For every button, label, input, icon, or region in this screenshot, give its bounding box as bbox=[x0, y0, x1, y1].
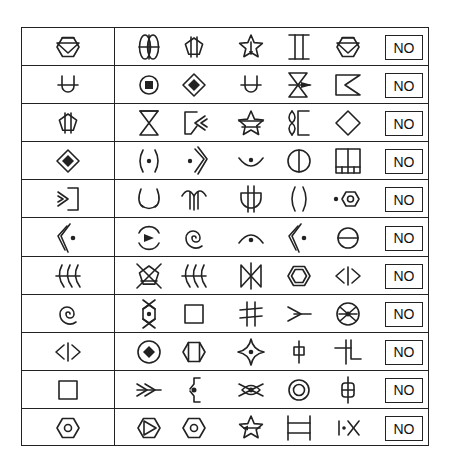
option-symbol-hash-icon[interactable] bbox=[231, 295, 271, 333]
option-symbol-smile-dot-icon[interactable] bbox=[231, 142, 271, 180]
option-symbol-parens-icon[interactable] bbox=[279, 180, 319, 218]
target-symbol-spiral-icon bbox=[48, 295, 88, 333]
option-symbol-circle-arrow-icon[interactable] bbox=[129, 219, 169, 257]
no-button[interactable]: NO bbox=[385, 416, 423, 441]
table-row: NO bbox=[22, 142, 428, 180]
option-symbol-hourglass-icon[interactable] bbox=[129, 104, 169, 142]
option-symbol-pentagon-bars-icon[interactable] bbox=[174, 28, 214, 66]
table-row: NO bbox=[22, 180, 428, 218]
target-symbol-arrow-bracket-icon bbox=[48, 180, 88, 218]
option-symbol-arrow-v-icon[interactable] bbox=[279, 295, 319, 333]
option-symbol-angle-bar-icon[interactable] bbox=[328, 257, 368, 295]
table-row: NO bbox=[22, 219, 428, 257]
table-row: NO bbox=[22, 333, 428, 371]
option-symbol-pentagon-cross-icon[interactable] bbox=[129, 257, 169, 295]
option-symbol-bracket-dot-icon[interactable] bbox=[174, 371, 214, 409]
target-symbol-u-crossbar-icon bbox=[48, 66, 88, 104]
table-row: NO bbox=[22, 371, 428, 409]
option-symbol-hexagon-play-icon[interactable] bbox=[129, 409, 169, 447]
target-symbol-hexagon-circle-icon bbox=[48, 409, 88, 447]
option-symbol-bracket-twist-icon[interactable] bbox=[279, 104, 319, 142]
no-button[interactable]: NO bbox=[385, 35, 423, 60]
option-symbol-spiral-icon[interactable] bbox=[174, 219, 214, 257]
option-symbol-hourglass-arrow-icon[interactable] bbox=[279, 66, 319, 104]
option-symbol-hexagon-dot-cross-icon[interactable] bbox=[129, 295, 169, 333]
table-row: NO bbox=[22, 295, 428, 333]
option-symbol-double-arch-icon[interactable] bbox=[174, 180, 214, 218]
option-symbol-eye-cross-icon[interactable] bbox=[231, 371, 271, 409]
option-symbol-circle-vertical-icon[interactable] bbox=[279, 142, 319, 180]
option-symbol-circle-square-icon[interactable] bbox=[129, 66, 169, 104]
option-symbol-hexagon-circle-icon[interactable] bbox=[174, 409, 214, 447]
target-symbol-hexagon-inverted-triangle-icon bbox=[48, 28, 88, 66]
option-symbol-dot-hexagon-icon[interactable] bbox=[328, 180, 368, 218]
option-symbol-cup-curve-icon[interactable] bbox=[129, 180, 169, 218]
option-symbol-double-circle-icon[interactable] bbox=[279, 371, 319, 409]
table-row: NO bbox=[22, 257, 428, 295]
no-button[interactable]: NO bbox=[385, 187, 423, 212]
option-symbol-star-arrow-icon[interactable] bbox=[231, 28, 271, 66]
table-row: NO bbox=[22, 28, 428, 66]
option-symbol-star-bar-icon[interactable] bbox=[231, 104, 271, 142]
target-symbol-diamond-filled-icon bbox=[48, 142, 88, 180]
table-row: NO bbox=[22, 66, 428, 104]
option-symbol-grid-box-icon[interactable] bbox=[328, 142, 368, 180]
option-symbol-double-ellipse-cross-icon[interactable] bbox=[129, 28, 169, 66]
table-row: NO bbox=[22, 104, 428, 142]
no-button[interactable]: NO bbox=[385, 264, 423, 289]
option-symbol-diamond-filled-icon[interactable] bbox=[174, 66, 214, 104]
option-symbol-h-bars-icon[interactable] bbox=[279, 409, 319, 447]
table-row: NO bbox=[22, 409, 428, 447]
target-symbol-angle-bar-icon bbox=[48, 333, 88, 371]
option-symbol-double-hook-icon[interactable] bbox=[174, 257, 214, 295]
no-button[interactable]: NO bbox=[385, 340, 423, 365]
option-symbol-step-cross-icon[interactable] bbox=[328, 333, 368, 371]
option-symbol-paren-dot-icon[interactable] bbox=[129, 142, 169, 180]
target-symbol-square-icon bbox=[48, 371, 88, 409]
no-button[interactable]: NO bbox=[385, 302, 423, 327]
no-button[interactable]: NO bbox=[385, 149, 423, 174]
option-symbol-hexagon-double-icon[interactable] bbox=[279, 257, 319, 295]
no-button[interactable]: NO bbox=[385, 226, 423, 251]
option-symbol-chevron-dot-icon[interactable] bbox=[174, 142, 214, 180]
option-symbol-bowtie-icon[interactable] bbox=[231, 257, 271, 295]
option-symbol-square-icon[interactable] bbox=[174, 295, 214, 333]
option-symbol-bar-dot-x-icon[interactable] bbox=[328, 409, 368, 447]
option-symbol-circle-x-icon[interactable] bbox=[328, 295, 368, 333]
no-button[interactable]: NO bbox=[385, 73, 423, 98]
option-symbol-box-chevrons-icon[interactable] bbox=[174, 104, 214, 142]
option-symbol-flag-notch-icon[interactable] bbox=[328, 66, 368, 104]
no-button[interactable]: NO bbox=[385, 111, 423, 136]
option-symbol-phi-cross-icon[interactable] bbox=[328, 371, 368, 409]
option-symbol-phi-small-icon[interactable] bbox=[279, 333, 319, 371]
option-symbol-trident-cup-icon[interactable] bbox=[231, 180, 271, 218]
option-symbol-u-crossbar-icon[interactable] bbox=[231, 66, 271, 104]
target-symbol-double-hook-icon bbox=[48, 257, 88, 295]
option-symbol-circle-diamond-icon[interactable] bbox=[129, 333, 169, 371]
option-symbol-hexagon-bars-icon[interactable] bbox=[174, 333, 214, 371]
option-symbol-double-chevron-dot-icon[interactable] bbox=[279, 219, 319, 257]
option-symbol-circle-horizontal-icon[interactable] bbox=[328, 219, 368, 257]
target-symbol-pentagon-bars-icon bbox=[48, 104, 88, 142]
option-symbol-arc-dot-icon[interactable] bbox=[231, 219, 271, 257]
option-symbol-hexagon-inverted-triangle-icon[interactable] bbox=[328, 28, 368, 66]
option-symbol-star-arrow-left-icon[interactable] bbox=[231, 409, 271, 447]
option-symbol-star4-dot-icon[interactable] bbox=[231, 333, 271, 371]
option-symbol-diamond-icon[interactable] bbox=[328, 104, 368, 142]
no-button[interactable]: NO bbox=[385, 378, 423, 403]
option-symbol-i-beam-icon[interactable] bbox=[279, 28, 319, 66]
target-symbol-double-chevron-dot-icon bbox=[48, 219, 88, 257]
option-symbol-double-arrow-icon[interactable] bbox=[129, 371, 169, 409]
symbol-matching-table: NONONONONONONONONONONO bbox=[21, 27, 429, 446]
